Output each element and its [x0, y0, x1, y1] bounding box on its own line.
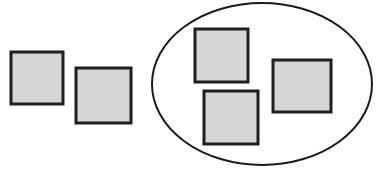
set-diagram: [0, 0, 384, 172]
diagram-canvas: [0, 0, 384, 172]
square-outside-1[interactable]: [11, 52, 63, 104]
square-inside-1[interactable]: [195, 29, 248, 82]
square-inside-2[interactable]: [273, 60, 331, 112]
square-outside-2[interactable]: [76, 68, 131, 123]
square-inside-3[interactable]: [204, 91, 258, 144]
